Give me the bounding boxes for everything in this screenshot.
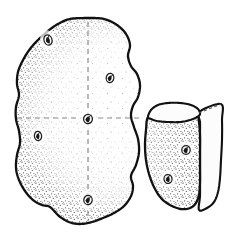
potato-illustration: Potato tuber with quarter section [0, 0, 230, 233]
wedge-eye-upper [178, 142, 194, 159]
eye-center [80, 110, 97, 127]
wedge-top-cut-face [148, 103, 200, 122]
illustration-canvas: Potato tuber with quarter section [0, 0, 230, 233]
